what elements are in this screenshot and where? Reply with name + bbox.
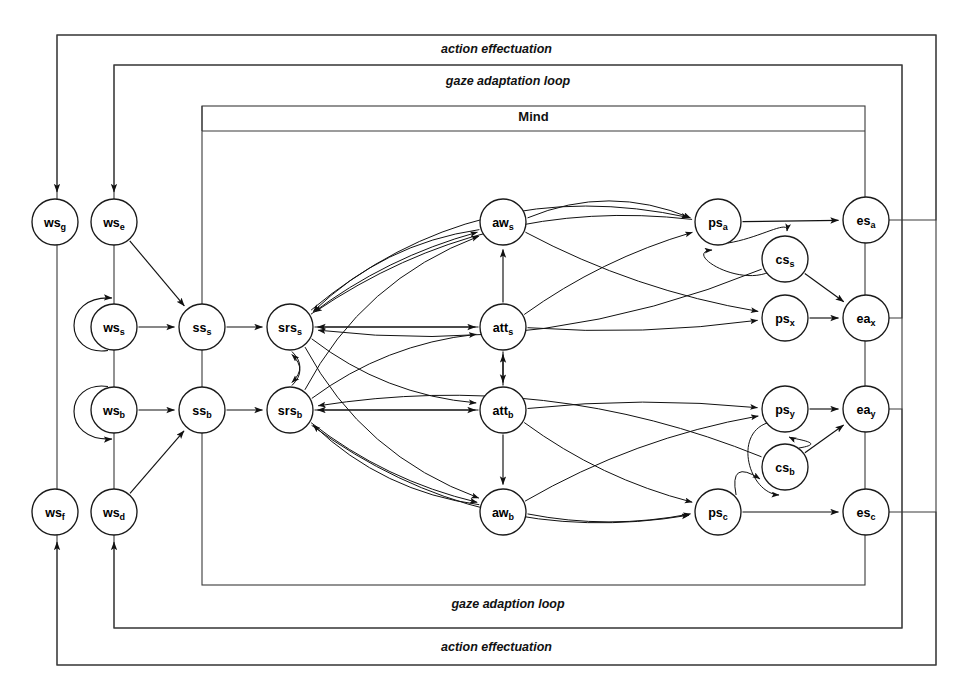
node-base-srs_b: srs <box>278 404 297 418</box>
edge-cs_b-to-ea_y <box>805 425 844 453</box>
node-base-ps_x: ps <box>775 312 790 326</box>
node-base-ps_y: ps <box>775 403 790 417</box>
node-ws_b[interactable]: wsb <box>91 387 137 433</box>
frame-middle-bottom-label: gaze adaption loop <box>450 597 565 611</box>
edge-srs_b-to-att_s <box>312 334 477 398</box>
edge-srs_s-to-att_b <box>312 339 477 403</box>
node-sub-ea_y: y <box>870 409 875 419</box>
node-ss_s[interactable]: sss <box>179 304 225 350</box>
node-base-att_s: att <box>493 321 509 335</box>
edge-srs_b-to-aw_b <box>311 423 477 503</box>
node-aw_s[interactable]: aws <box>480 199 526 245</box>
node-sub-ss_b: b <box>206 410 212 420</box>
node-es_c[interactable]: esc <box>843 489 889 535</box>
edge-cs_s-to-ea_x <box>805 273 844 301</box>
edge-group <box>74 201 844 523</box>
node-base-cs_s: cs <box>776 253 790 267</box>
node-sub-aw_s: s <box>509 222 514 232</box>
edge-ps_a-to-es_a <box>742 220 838 221</box>
edge-att_b-to-ps_c <box>524 423 692 503</box>
node-base-ws_b: ws <box>102 404 120 418</box>
node-base-ws_e: ws <box>102 216 120 230</box>
node-ss_b[interactable]: ssb <box>179 387 225 433</box>
node-sub-att_s: s <box>508 327 513 337</box>
node-srs_s[interactable]: srss <box>267 304 313 350</box>
edge-cs_b-to-srs_b <box>318 395 761 457</box>
node-group: wsgwsewssssssrsswsbssbsrsbwsfwsdawsattsa… <box>32 197 889 535</box>
node-base-ps_a: ps <box>708 216 723 230</box>
node-sub-ws_s: s <box>120 327 125 337</box>
frame-outer-top-label: action effectuation <box>441 42 552 56</box>
node-sub-es_c: c <box>870 512 875 522</box>
node-ps_a[interactable]: psa <box>695 199 741 245</box>
node-base-ea_y: ea <box>857 403 872 417</box>
node-base-aw_s: aw <box>492 216 509 230</box>
node-ps_c[interactable]: psc <box>695 489 741 535</box>
frame-outer-bottom-label: action effectuation <box>441 640 552 654</box>
node-base-ps_c: ps <box>708 506 723 520</box>
node-sub-ea_x: x <box>870 318 875 328</box>
node-ws_g[interactable]: wsg <box>32 199 78 245</box>
node-sub-cs_b: b <box>789 467 795 477</box>
node-base-att_b: att <box>493 404 509 418</box>
node-cs_s[interactable]: css <box>762 236 808 282</box>
edge-cs_s-to-ps_a <box>704 250 767 276</box>
node-base-ss_b: ss <box>192 404 206 418</box>
node-sub-cs_s: s <box>789 259 794 269</box>
node-sub-ws_g: g <box>61 222 67 232</box>
node-att_b[interactable]: attb <box>480 387 526 433</box>
node-sub-ps_c: c <box>723 512 728 522</box>
edge-ws_e-to-ss_s <box>130 241 185 306</box>
frame-outer <box>57 35 936 665</box>
architecture-diagram: wsgwsewssssssrsswsbssbsrsbwsfwsdawsattsa… <box>0 0 973 699</box>
node-base-ws_d: ws <box>102 506 120 520</box>
node-ps_x[interactable]: psx <box>762 295 808 341</box>
node-ea_y[interactable]: eay <box>843 386 889 432</box>
node-sub-srs_b: b <box>297 410 303 420</box>
node-sub-att_b: b <box>508 410 514 420</box>
node-sub-ws_d: d <box>120 512 126 522</box>
node-aw_b[interactable]: awb <box>480 489 526 535</box>
node-base-es_a: es <box>857 214 871 228</box>
node-ea_x[interactable]: eax <box>843 295 889 341</box>
node-srs_b[interactable]: srsb <box>267 387 313 433</box>
edge-srs_s-to-aw_b <box>305 347 479 498</box>
frame-middle-top-label: gaze adaptation loop <box>445 74 571 88</box>
node-sub-ws_e: e <box>120 222 125 232</box>
node-ws_s[interactable]: wss <box>91 304 137 350</box>
node-ws_d[interactable]: wsd <box>91 489 137 535</box>
node-ps_y[interactable]: psy <box>762 386 808 432</box>
edge-aw_b-to-ps_y <box>525 416 758 501</box>
node-sub-ss_s: s <box>206 327 211 337</box>
node-base-ea_x: ea <box>857 312 872 326</box>
diagram-root: wsgwsewssssssrsswsbssbsrsbwsfwsdawsattsa… <box>0 0 973 699</box>
node-es_a[interactable]: esa <box>843 197 889 243</box>
edge-aw_b-to-srs_b <box>313 425 479 505</box>
node-base-srs_s: srs <box>278 321 297 335</box>
node-base-ws_g: ws <box>43 216 61 230</box>
node-ws_e[interactable]: wse <box>91 199 137 245</box>
edge-ws_d-to-ss_b <box>130 431 184 494</box>
node-base-aw_b: aw <box>492 506 509 520</box>
node-sub-ws_b: b <box>120 410 126 420</box>
node-sub-ps_y: y <box>790 409 795 419</box>
node-sub-ps_x: x <box>790 318 795 328</box>
node-att_s[interactable]: atts <box>480 304 526 350</box>
node-base-ws_f: ws <box>44 506 62 520</box>
node-sub-aw_b: b <box>509 512 515 522</box>
node-sub-srs_s: s <box>297 327 302 337</box>
feedback-route-group <box>57 35 936 665</box>
feedback-route-es_a_to_ws_g <box>57 35 936 220</box>
frame-group <box>57 35 936 665</box>
edge-srs_b-to-aw_s <box>305 236 479 390</box>
node-base-es_c: es <box>857 506 871 520</box>
node-base-cs_b: cs <box>775 461 789 475</box>
node-base-ws_s: ws <box>102 321 120 335</box>
frame-mind-top-label: Mind <box>518 109 548 124</box>
node-base-ss_s: ss <box>193 321 207 335</box>
node-cs_b[interactable]: csb <box>762 444 808 490</box>
edge-ps_c-to-cs_b <box>735 472 760 495</box>
edge-srs_s-to-aw_s <box>311 232 477 314</box>
node-ws_f[interactable]: wsf <box>32 489 78 535</box>
